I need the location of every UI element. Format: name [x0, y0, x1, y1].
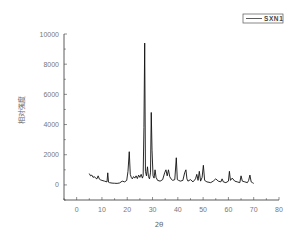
x-tick-label: 70: [250, 206, 258, 213]
legend-label: SXN1: [264, 15, 283, 22]
y-axis-title: 相对强度: [17, 96, 26, 124]
x-tick-label: 20: [123, 206, 131, 213]
y-tick-label: 8000: [43, 61, 59, 68]
xrd-chart: 020004000600080001000001020304050607080 …: [0, 0, 302, 244]
x-axis-title: 2θ: [155, 221, 164, 229]
y-tick-label: 0: [55, 181, 59, 188]
x-tick-label: 40: [174, 206, 182, 213]
y-tick-label: 6000: [43, 91, 59, 98]
y-tick-label: 4000: [43, 121, 59, 128]
x-tick-label: 0: [75, 206, 79, 213]
x-tick-label: 80: [275, 206, 283, 213]
y-tick-label: 2000: [43, 151, 59, 158]
x-tick-label: 50: [199, 206, 207, 213]
x-tick-label: 10: [98, 206, 106, 213]
chart-axes: [64, 34, 279, 200]
x-tick-label: 30: [149, 206, 157, 213]
x-tick-label: 60: [225, 206, 233, 213]
y-tick-label: 10000: [40, 31, 60, 38]
legend: SXN1: [243, 14, 283, 23]
data-series-sxn1: [89, 43, 253, 183]
axis-ticks: 020004000600080001000001020304050607080: [40, 31, 283, 214]
